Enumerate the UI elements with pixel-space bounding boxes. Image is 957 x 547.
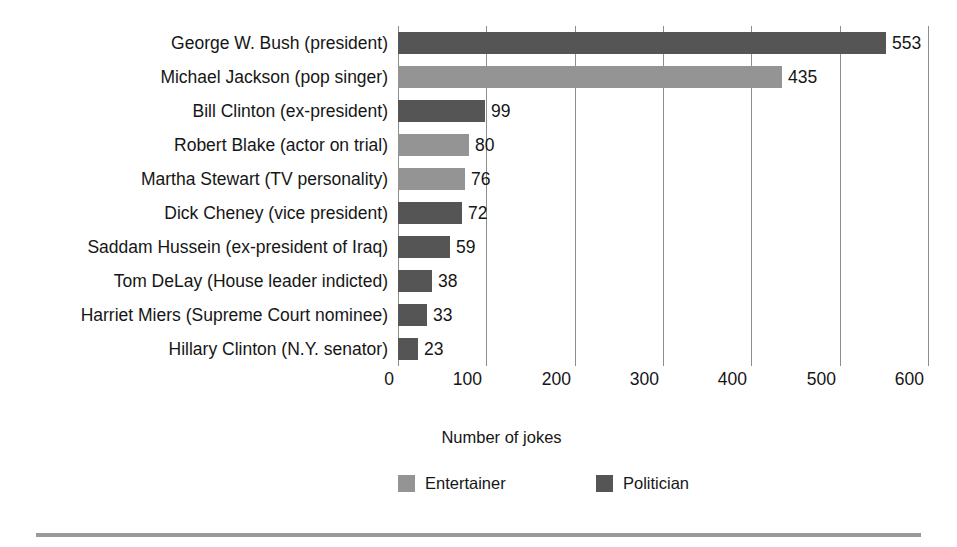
category-label: Robert Blake (actor on trial) — [0, 128, 393, 162]
bar — [398, 66, 782, 88]
bar-row: 80 — [398, 128, 928, 162]
bar — [398, 168, 465, 190]
bar-row: 435 — [398, 60, 928, 94]
bar-value-label: 72 — [462, 202, 487, 224]
legend-swatch-icon — [596, 475, 613, 492]
x-tick-label: 600 — [895, 369, 928, 390]
bar — [398, 304, 427, 326]
category-label: Dick Cheney (vice president) — [0, 196, 393, 230]
x-tick-label: 0 — [384, 369, 398, 390]
legend-item-politician: Politician — [596, 474, 689, 493]
plot-area: 5534359980767259383323 — [398, 26, 928, 366]
bar-value-label: 80 — [469, 134, 494, 156]
bar — [398, 270, 432, 292]
x-tick-label: 300 — [630, 369, 663, 390]
x-tick-label: 400 — [718, 369, 751, 390]
legend-label: Politician — [623, 474, 689, 493]
bottom-divider — [36, 533, 921, 537]
bar-value-label: 99 — [485, 100, 510, 122]
bar-value-label: 435 — [782, 66, 817, 88]
bar-value-label: 23 — [418, 338, 443, 360]
bar-value-label: 59 — [450, 236, 475, 258]
bar-row: 553 — [398, 26, 928, 60]
category-label: Saddam Hussein (ex-president of Iraq) — [0, 230, 393, 264]
category-label: Bill Clinton (ex-president) — [0, 94, 393, 128]
bar — [398, 134, 469, 156]
bar-row: 76 — [398, 162, 928, 196]
category-axis-labels: George W. Bush (president) Michael Jacks… — [0, 26, 393, 366]
bar-row: 33 — [398, 298, 928, 332]
category-label: Michael Jackson (pop singer) — [0, 60, 393, 94]
bar-chart: George W. Bush (president) Michael Jacks… — [0, 0, 957, 547]
x-tick-label: 500 — [807, 369, 840, 390]
legend-swatch-icon — [398, 475, 415, 492]
legend-item-entertainer: Entertainer — [398, 474, 506, 493]
x-axis-tick-labels: 0100200300400500600 — [398, 369, 928, 395]
bar-row: 59 — [398, 230, 928, 264]
category-label: George W. Bush (president) — [0, 26, 393, 60]
x-tick-label: 200 — [542, 369, 575, 390]
legend-label: Entertainer — [425, 474, 506, 493]
bar — [398, 32, 886, 54]
bar-value-label: 33 — [427, 304, 452, 326]
bar — [398, 338, 418, 360]
bar — [398, 100, 485, 122]
category-label: Harriet Miers (Supreme Court nominee) — [0, 298, 393, 332]
bar-row: 72 — [398, 196, 928, 230]
x-axis-title: Number of jokes — [0, 428, 957, 447]
x-tick-label: 100 — [453, 369, 486, 390]
bar-value-label: 38 — [432, 270, 457, 292]
category-label: Hillary Clinton (N.Y. senator) — [0, 332, 393, 366]
gridline — [928, 26, 929, 366]
category-label: Tom DeLay (House leader indicted) — [0, 264, 393, 298]
bar — [398, 202, 462, 224]
bar-row: 38 — [398, 264, 928, 298]
category-label: Martha Stewart (TV personality) — [0, 162, 393, 196]
bar-row: 23 — [398, 332, 928, 366]
bar-series: 5534359980767259383323 — [398, 26, 928, 366]
x-axis-title-text: Number of jokes — [441, 428, 561, 447]
bar-value-label: 76 — [465, 168, 490, 190]
bar-value-label: 553 — [886, 32, 921, 54]
bar-row: 99 — [398, 94, 928, 128]
bar — [398, 236, 450, 258]
